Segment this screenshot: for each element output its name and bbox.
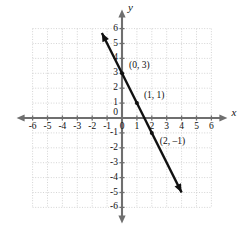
y-tick-label: -1: [96, 128, 118, 138]
y-tick-label: 2: [96, 83, 118, 93]
y-tick-label: -2: [96, 143, 118, 153]
point-label: (0, 3): [129, 61, 150, 71]
x-tick-label: 6: [199, 122, 223, 132]
origin-label: 0: [96, 108, 118, 118]
y-tick-label: 6: [96, 24, 118, 34]
y-tick-label: -4: [96, 173, 118, 183]
x-axis-label: x: [231, 107, 236, 118]
y-tick-label: 4: [96, 53, 118, 63]
point-label: (2, –1): [160, 137, 185, 147]
chart-canvas: [0, 0, 242, 230]
coordinate-plane-chart: -6-5-4-3-2-10123456654321-1-2-3-4-5-60 (…: [0, 0, 242, 230]
y-tick-label: -6: [96, 202, 118, 212]
y-tick-label: -5: [96, 188, 118, 198]
y-tick-label: -3: [96, 158, 118, 168]
y-tick-label: 3: [96, 68, 118, 78]
point-label: (1, 1): [144, 91, 165, 101]
axes: [17, 10, 228, 224]
y-axis-label: y: [128, 2, 133, 13]
y-tick-label: 5: [96, 39, 118, 49]
